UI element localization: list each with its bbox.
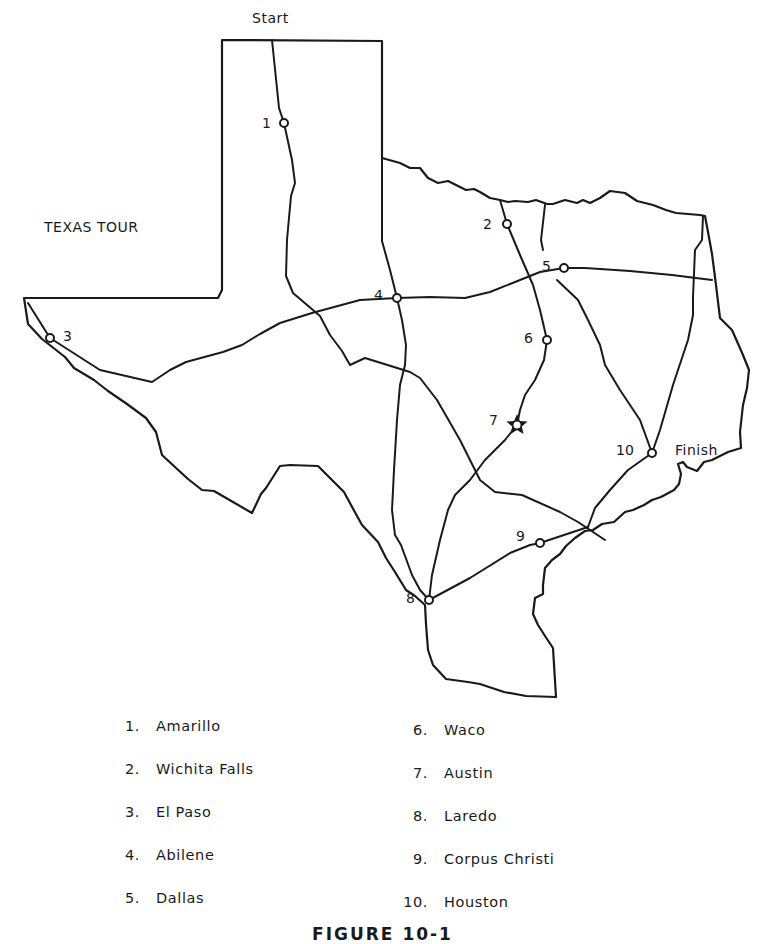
city-marker-icon: [393, 294, 401, 302]
city-marker-icon: [560, 264, 568, 272]
texas-outline: [24, 40, 749, 697]
stop-number-9: 9: [516, 528, 525, 544]
legend-item: 2.Wichita Falls: [108, 761, 254, 777]
legend-item: 5.Dallas: [108, 890, 204, 906]
road-dallas-houston: [557, 280, 652, 453]
capital-marker: [514, 422, 521, 429]
city-marker-icon: [536, 539, 544, 547]
texas-map: [0, 0, 765, 700]
stop-number-5: 5: [542, 258, 551, 274]
stop-number-10: 10: [616, 442, 634, 458]
finish-label: Finish: [675, 442, 718, 458]
stop-number-2: 2: [483, 216, 492, 232]
stop-number-1: 1: [262, 115, 271, 131]
legend-item: 6.Waco: [396, 722, 486, 738]
map-title: TEXAS TOUR: [44, 219, 138, 235]
city-marker-icon: [280, 119, 288, 127]
stop-number-3: 3: [63, 328, 72, 344]
city-marker-icon: [46, 334, 54, 342]
city-markers: [46, 119, 656, 604]
city-marker-icon: [543, 336, 551, 344]
figure-caption: FIGURE 10-1: [0, 924, 765, 944]
legend-item: 10.Houston: [396, 894, 508, 910]
road-houston-north: [652, 216, 703, 453]
legend-item: 7.Austin: [396, 765, 493, 781]
road-laredo-corpus: [429, 527, 588, 600]
road-north-dallas: [541, 205, 545, 250]
stop-number-6: 6: [524, 330, 533, 346]
city-marker-icon: [648, 449, 656, 457]
road-amarillo-south: [272, 40, 605, 540]
city-marker-icon: [425, 596, 433, 604]
road-wichitafalls-austin: [429, 200, 547, 600]
legend-item: 9.Corpus Christi: [396, 851, 555, 867]
legend-item: 4.Abilene: [108, 847, 214, 863]
stop-number-8: 8: [406, 590, 415, 606]
legend-item: 8.Laredo: [396, 808, 497, 824]
legend: 1.Amarillo 2.Wichita Falls 3.El Paso 4.A…: [0, 718, 765, 888]
legend-item: 1.Amarillo: [108, 718, 221, 734]
start-label: Start: [252, 10, 289, 26]
legend-item: 3.El Paso: [108, 804, 211, 820]
road-elpaso-dallas: [28, 268, 712, 382]
stop-number-4: 4: [374, 287, 383, 303]
city-marker-icon: [503, 220, 511, 228]
stop-number-7: 7: [489, 412, 498, 428]
